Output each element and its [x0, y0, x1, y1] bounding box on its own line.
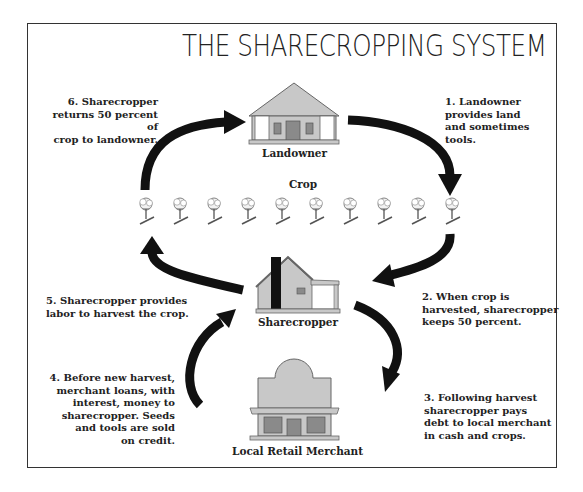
arrow-sharecropper-to-merchant [355, 305, 397, 372]
crop-row [140, 198, 460, 224]
landowner-label: Landowner [262, 147, 326, 159]
arrow-merchant-to-sharecropper [190, 322, 222, 405]
arrow-landowner-to-crop [348, 120, 450, 176]
step-1-caption: 1. Landowner provides land and sometimes… [445, 96, 529, 146]
arrow-head-6 [224, 110, 246, 134]
arrow-sharecropper-to-crop [152, 252, 243, 290]
step-4-caption: 4. Before new harvest, merchant loans, w… [30, 372, 175, 447]
step-3-caption: 3. Following harvest sharecropper pays d… [424, 392, 551, 442]
arrow-head-1 [438, 174, 462, 196]
storefront-icon [250, 359, 339, 440]
step-5-caption: 5. Sharecropper provides labor to harves… [46, 295, 189, 320]
merchant-label: Local Retail Merchant [232, 445, 358, 457]
arrow-head-5 [140, 236, 164, 254]
crop-label: Crop [283, 178, 323, 190]
arrow-crop-to-sharecropper [387, 234, 450, 276]
step-2-caption: 2. When crop is harvested, sharecropper … [422, 291, 558, 329]
step-6-caption: 6. Sharecropper returns 50 percent of cr… [40, 96, 158, 146]
sharecropper-label: Sharecropper [254, 316, 342, 328]
cabin-icon [256, 257, 340, 313]
plantation-house-icon [249, 83, 339, 144]
arrow-head-2 [372, 264, 395, 287]
